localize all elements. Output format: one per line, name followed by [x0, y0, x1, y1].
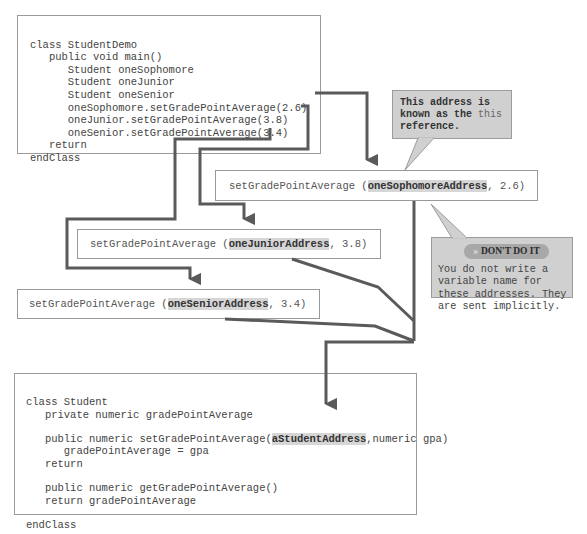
junior-return-line: [292, 259, 414, 321]
sophomore-call-arrow: [315, 93, 367, 160]
senior-return-line: [225, 319, 414, 341]
junior-call-arrow: [200, 106, 308, 219]
connector-arrows: [0, 0, 587, 534]
this-callout-pointer: [405, 138, 434, 170]
class-entry-arrow: [326, 342, 414, 404]
dont-callout-pointer: [431, 204, 467, 238]
